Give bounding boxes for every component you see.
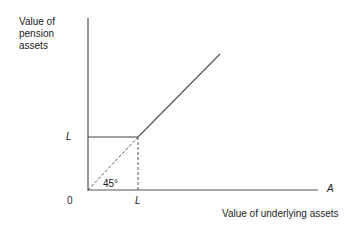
angle-label: 45° bbox=[103, 178, 118, 190]
origin-label: 0 bbox=[67, 195, 73, 207]
y-tick-label: L bbox=[66, 131, 72, 143]
x-axis-end-label: A bbox=[327, 183, 334, 195]
y-label-line3: assets bbox=[19, 40, 55, 52]
x-tick-label: L bbox=[135, 195, 141, 207]
payoff-line bbox=[138, 54, 220, 137]
y-label-line1: Value of bbox=[19, 16, 55, 28]
y-axis-label: Value of pension assets bbox=[19, 16, 55, 52]
x-axis-label: Value of underlying assets bbox=[222, 208, 339, 220]
y-label-line2: pension bbox=[19, 28, 55, 40]
